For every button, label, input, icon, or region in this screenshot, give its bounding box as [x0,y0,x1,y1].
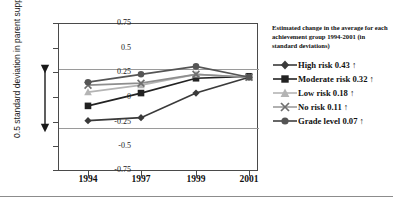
legend-label: Low risk 0.18 ↑ [298,88,354,98]
square-marker [272,72,298,86]
legend-item-low-risk[interactable]: Low risk 0.18 ↑ [272,86,392,100]
data-point [85,79,92,86]
data-point [137,114,144,121]
data-point [246,74,253,81]
x-tick-label-1994: 1994 [66,174,110,184]
chart-figure: 0.5 standard deviation in parent support… [0,0,393,205]
data-point [193,63,200,70]
data-point [85,103,92,110]
legend: Estimated change in the average for each… [272,24,392,128]
legend-item-moderate-risk[interactable]: Moderate risk 0.32 ↑ [272,72,392,86]
data-point [138,90,145,97]
figure-bottom-rule [0,196,393,197]
legend-item-grade-level[interactable]: Grade level 0.07 ↑ [272,114,392,128]
legend-label: Moderate risk 0.32 ↑ [298,74,374,84]
triangle-marker [272,86,298,100]
diamond-marker [272,58,298,72]
data-point [84,117,91,124]
legend-label: Grade level 0.07 ↑ [298,116,364,126]
data-point [192,89,199,96]
y-axis-title: 0.5 standard deviation in parent support [12,0,22,158]
legend-item-high-risk[interactable]: High risk 0.43 ↑ [272,58,392,72]
cross-marker [272,100,298,114]
series-high-risk [84,74,252,125]
data-point [138,71,145,78]
series-overlay [58,23,258,171]
legend-header: Estimated change in the average for each… [272,24,392,51]
circle-marker [272,114,298,128]
x-tick-label-2001: 2001 [227,174,271,184]
legend-label: High risk 0.43 ↑ [298,60,356,70]
legend-item-no-risk[interactable]: No risk 0.11 ↑ [272,100,392,114]
x-tick-label-1997: 1997 [119,174,163,184]
x-tick-label-1999: 1999 [174,174,218,184]
sd-range-arrow [38,0,52,205]
legend-label: No risk 0.11 ↑ [298,102,348,112]
series-grade-level [85,63,253,85]
